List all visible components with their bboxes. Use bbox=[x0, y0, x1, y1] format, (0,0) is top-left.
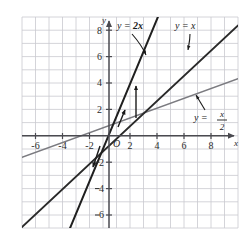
x-axis-name: x bbox=[233, 138, 238, 148]
label-y-equals-x: y=x bbox=[174, 20, 196, 31]
y-tick-label--6: 6 bbox=[99, 209, 104, 220]
y-tick-label-8: 8 bbox=[97, 25, 102, 36]
coordinate-plane: -6 -4 -2 2 4 6 8 8 6 4 2 2 4 6 x y O bbox=[0, 0, 247, 239]
label-y-equals-2x: y=2x bbox=[116, 20, 143, 31]
y-tick-label--2: 2 bbox=[99, 157, 104, 168]
y-tick-label-2: 2 bbox=[97, 104, 102, 115]
y-axis-name: y bbox=[101, 15, 106, 25]
origin-label: O bbox=[113, 138, 120, 149]
x-tick-label-6: 6 bbox=[182, 140, 187, 151]
x-tick-label-4: 4 bbox=[155, 140, 160, 151]
fraction-denominator: 2 bbox=[220, 122, 225, 132]
fraction-numerator: x bbox=[219, 109, 224, 119]
y-tick-label--4: 4 bbox=[99, 183, 104, 194]
x-tick-label--2: -2 bbox=[85, 140, 93, 151]
x-tick-label--4: -4 bbox=[58, 140, 66, 151]
graph-figure: -6 -4 -2 2 4 6 8 8 6 4 2 2 4 6 x y O bbox=[0, 0, 247, 239]
x-tick-label-8: 8 bbox=[209, 140, 214, 151]
x-tick-label-2: 2 bbox=[128, 140, 133, 151]
x-tick-label--6: -6 bbox=[31, 140, 39, 151]
y-tick-label-4: 4 bbox=[97, 77, 102, 88]
y-tick-label-6: 6 bbox=[97, 51, 102, 62]
